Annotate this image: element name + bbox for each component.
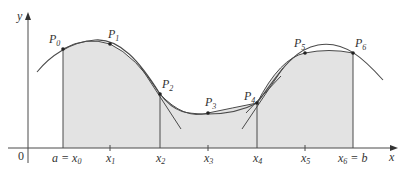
x-axis-label: x xyxy=(388,150,395,164)
point-p0 xyxy=(61,47,65,51)
simpsons-rule-diagram: P0 P1 P2 P3 P4 P5 P6 0 y x a = x0 x1 x2 … xyxy=(0,0,413,180)
svg-text:x1: x1 xyxy=(105,151,115,166)
point-p1 xyxy=(108,42,112,46)
y-axis-arrow-icon xyxy=(25,12,31,20)
svg-text:x6 = b: x6 = b xyxy=(337,151,367,166)
svg-text:P2: P2 xyxy=(161,77,173,93)
point-p2 xyxy=(158,92,162,96)
svg-text:x2: x2 xyxy=(155,151,165,166)
svg-text:P6: P6 xyxy=(354,36,366,52)
svg-text:x4: x4 xyxy=(252,151,262,166)
svg-text:a = x0: a = x0 xyxy=(52,151,81,166)
svg-text:x5: x5 xyxy=(300,151,310,166)
y-axis-label: y xyxy=(16,9,23,23)
svg-text:P5: P5 xyxy=(293,36,305,52)
svg-text:P4: P4 xyxy=(243,89,255,105)
svg-text:P3: P3 xyxy=(204,95,216,111)
x-tick-labels: a = x0 x1 x2 x3 x4 x5 x6 = b xyxy=(52,151,367,166)
svg-text:P0: P0 xyxy=(48,32,60,48)
svg-text:P1: P1 xyxy=(107,27,119,43)
point-p3 xyxy=(206,111,210,115)
origin-label: 0 xyxy=(18,149,24,163)
point-p4 xyxy=(255,101,259,105)
svg-text:x3: x3 xyxy=(203,151,213,166)
point-p6 xyxy=(351,51,355,55)
